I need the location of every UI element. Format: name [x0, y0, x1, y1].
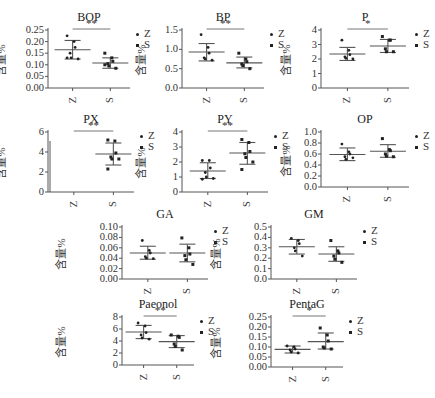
legend: ZS — [415, 28, 430, 50]
dot-marker-icon — [270, 33, 273, 36]
square-marker-icon — [415, 44, 418, 47]
subplot-ga: GA含量%0.000.020.040.060.080.10ZSZS — [60, 205, 210, 305]
significance-marker: ** — [76, 17, 106, 29]
subplot-paeonol: Paeonol含量%02468**ZSZS — [60, 295, 210, 395]
legend-label: S — [423, 38, 429, 50]
dot-marker-icon — [136, 33, 139, 36]
subplot-op: OP含量%0.00.20.40.60.81.0ZSZS — [285, 110, 435, 210]
legend: ZS — [349, 315, 364, 337]
x-tick-label: Z — [202, 95, 212, 105]
x-tick-label: S — [105, 95, 115, 105]
x-tick-label: S — [383, 95, 393, 105]
square-marker-icon — [349, 331, 352, 334]
significance-marker: ** — [213, 119, 243, 131]
x-tick-label: Z — [342, 95, 352, 105]
x-tick-label: Z — [342, 194, 352, 204]
significance-marker: ** — [145, 304, 175, 316]
x-tick-label: Z — [288, 374, 298, 384]
significance-marker: * — [294, 304, 324, 316]
subplot-bop: BOP含量%0.000.050.100.150.200.25**ZSZS — [0, 8, 150, 108]
legend-label: S — [423, 140, 429, 152]
legend-item-s: S — [415, 141, 430, 152]
plot-area — [0, 8, 150, 108]
square-marker-icon — [270, 44, 273, 47]
x-tick-label: Z — [68, 95, 78, 105]
square-marker-icon — [363, 241, 366, 244]
significance-marker: ** — [210, 17, 240, 29]
dot-marker-icon — [349, 320, 352, 323]
square-marker-icon — [415, 146, 418, 149]
legend-item-s: S — [349, 326, 364, 337]
legend-label: S — [357, 325, 363, 337]
significance-marker: ** — [79, 119, 109, 131]
x-tick-label: S — [239, 95, 249, 105]
dot-marker-icon — [363, 230, 366, 233]
x-tick-label: Z — [139, 372, 149, 382]
dot-marker-icon — [200, 320, 203, 323]
dot-marker-icon — [415, 33, 418, 36]
subplot-p: P含量%01234*ZSZS — [285, 8, 435, 108]
square-marker-icon — [200, 331, 203, 334]
x-tick-label: S — [172, 372, 182, 382]
dot-marker-icon — [274, 135, 277, 138]
legend: ZS — [363, 225, 378, 247]
x-tick-label: S — [383, 194, 393, 204]
legend-label: S — [371, 235, 377, 247]
significance-marker: * — [353, 17, 383, 29]
plot-area — [0, 110, 150, 210]
subplot-pentag: PentaG含量%0.000.050.100.150.200.25*ZSZS — [215, 295, 365, 395]
legend: ZS — [415, 130, 430, 152]
subplot-px: PX含量%0246**ZSZS — [0, 110, 150, 210]
legend-item-s: S — [363, 236, 378, 247]
plot-area — [215, 205, 365, 305]
legend-item-s: S — [415, 39, 430, 50]
plot-area — [60, 295, 210, 395]
subplot-gm: GM含量%0.00.10.20.30.40.5ZSZS — [215, 205, 365, 305]
x-tick-label: S — [321, 374, 331, 384]
plot-area — [285, 110, 435, 210]
subplot-bp: BP含量%0.00.51.01.5**ZSZS — [140, 8, 290, 108]
dot-marker-icon — [415, 135, 418, 138]
subplot-py: PY含量%01234**ZSZS — [140, 110, 290, 210]
